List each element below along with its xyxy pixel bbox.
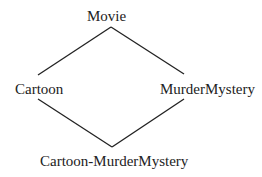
edge-cartoon-combined [38, 99, 112, 147]
diagram: Movie Cartoon MurderMystery Cartoon-Murd… [0, 0, 262, 177]
node-cartoon: Cartoon [15, 82, 63, 97]
edge-movie-cartoon [38, 27, 111, 75]
edge-murdermystery-combined [112, 99, 184, 147]
node-murdermystery: MurderMystery [160, 82, 255, 97]
node-movie: Movie [87, 9, 126, 24]
edge-movie-murdermystery [111, 27, 184, 74]
node-cartoon-murdermystery: Cartoon-MurderMystery [40, 154, 188, 169]
